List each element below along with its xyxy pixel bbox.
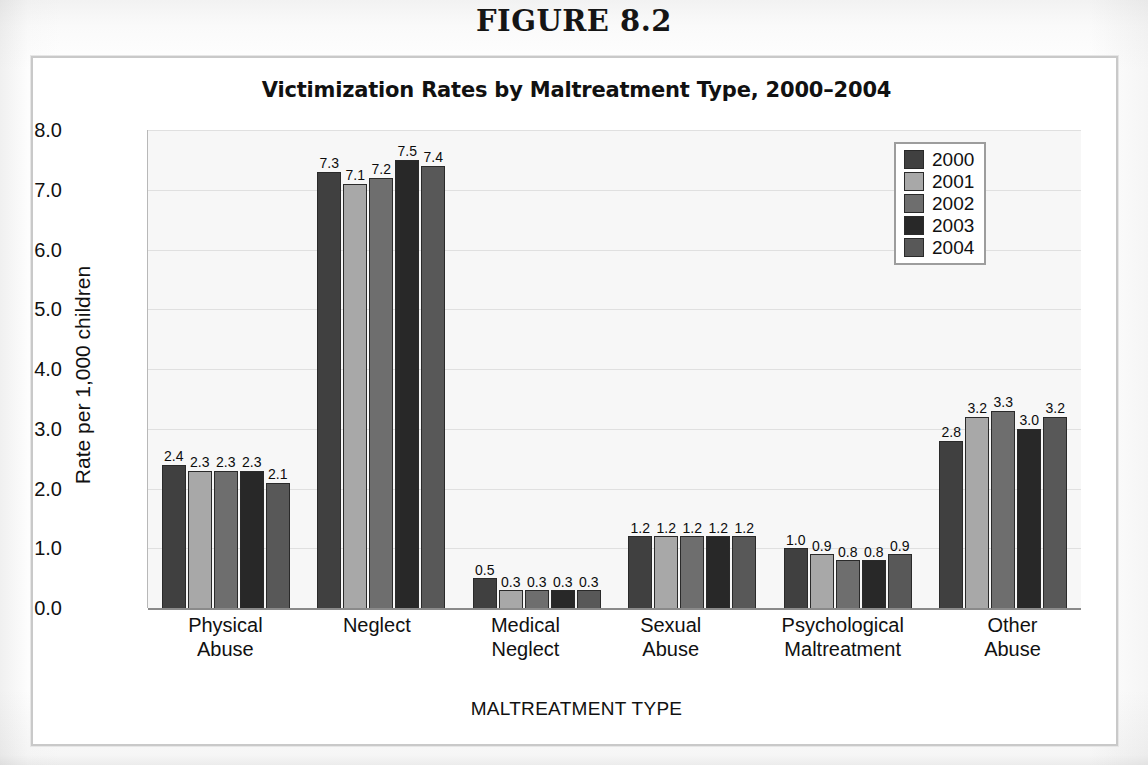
bar[interactable]: 0.9 <box>888 554 912 608</box>
bar-value-label: 1.2 <box>709 521 728 536</box>
x-category-label: Medical Neglect <box>491 614 560 661</box>
bar[interactable]: 3.3 <box>991 411 1015 608</box>
x-category-label: Neglect <box>343 614 411 661</box>
legend-item[interactable]: 2003 <box>904 216 974 235</box>
bar-slot: 1.2 <box>654 130 678 608</box>
bar-value-label: 3.0 <box>1020 413 1039 428</box>
legend-label: 2000 <box>932 150 974 169</box>
bar-slot: 2.3 <box>214 130 238 608</box>
bar-group: 1.00.90.80.80.9 <box>784 130 912 608</box>
legend-item[interactable]: 2004 <box>904 238 974 257</box>
figure-frame: Victimization Rates by Maltreatment Type… <box>31 56 1118 746</box>
bar[interactable]: 0.3 <box>551 590 575 608</box>
bar-value-label: 0.3 <box>553 575 572 590</box>
x-axis-categories: Physical AbuseNeglectMedical NeglectSexu… <box>148 614 1081 661</box>
bar-slot: 1.0 <box>784 130 808 608</box>
bar[interactable]: 2.3 <box>214 471 238 608</box>
bar[interactable]: 1.2 <box>680 536 704 608</box>
bar-value-label: 1.2 <box>657 521 676 536</box>
bar-slot: 0.9 <box>810 130 834 608</box>
bar[interactable]: 1.2 <box>628 536 652 608</box>
figure-page: FIGURE 8.2 Victimization Rates by Maltre… <box>0 0 1148 765</box>
bar-value-label: 3.2 <box>968 401 987 416</box>
bar[interactable]: 2.1 <box>266 483 290 608</box>
bar-value-label: 0.3 <box>501 575 520 590</box>
bar[interactable]: 2.3 <box>240 471 264 608</box>
bar-slot: 2.1 <box>266 130 290 608</box>
bar-group: 2.42.32.32.32.1 <box>162 130 290 608</box>
bar-slot: 1.2 <box>732 130 756 608</box>
bar[interactable]: 0.3 <box>499 590 523 608</box>
bar-value-label: 0.8 <box>838 545 857 560</box>
legend-item[interactable]: 2001 <box>904 172 974 191</box>
bar-value-label: 7.5 <box>398 144 417 159</box>
bar[interactable]: 2.3 <box>188 471 212 608</box>
bar[interactable]: 7.4 <box>421 166 445 608</box>
bar-value-label: 0.9 <box>812 539 831 554</box>
bar-group: 7.37.17.27.57.4 <box>317 130 445 608</box>
x-category-label: Physical Abuse <box>188 614 262 661</box>
bar-value-label: 2.3 <box>216 455 235 470</box>
bar-value-label: 7.4 <box>424 150 443 165</box>
y-axis-label: Rate per 1,000 children <box>71 175 95 575</box>
bar[interactable]: 7.2 <box>369 178 393 608</box>
bar[interactable]: 1.2 <box>706 536 730 608</box>
legend-swatch-icon <box>904 172 924 191</box>
y-tick-label: 2.0 <box>2 477 62 500</box>
legend-swatch-icon <box>904 150 924 169</box>
bar[interactable]: 2.8 <box>939 441 963 608</box>
bar[interactable]: 1.0 <box>784 548 808 608</box>
bar-slot: 7.1 <box>343 130 367 608</box>
bar[interactable]: 2.4 <box>162 465 186 608</box>
bar-slot: 0.8 <box>836 130 860 608</box>
bar[interactable]: 7.3 <box>317 172 341 608</box>
y-tick-label: 5.0 <box>2 298 62 321</box>
legend-label: 2002 <box>932 194 974 213</box>
legend-label: 2004 <box>932 238 974 257</box>
bar-value-label: 7.2 <box>372 162 391 177</box>
bar-value-label: 0.5 <box>475 563 494 578</box>
bar[interactable]: 0.9 <box>810 554 834 608</box>
bar-value-label: 2.3 <box>190 455 209 470</box>
bar[interactable]: 0.3 <box>525 590 549 608</box>
bar[interactable]: 3.0 <box>1017 429 1041 608</box>
bar-slot: 7.3 <box>317 130 341 608</box>
y-tick-label: 7.0 <box>2 178 62 201</box>
bar[interactable]: 7.1 <box>343 184 367 608</box>
bar-value-label: 3.2 <box>1046 401 1065 416</box>
bar-slot: 1.2 <box>706 130 730 608</box>
bar-group: 0.50.30.30.30.3 <box>473 130 601 608</box>
bar[interactable]: 3.2 <box>1043 417 1067 608</box>
bar[interactable]: 0.8 <box>862 560 886 608</box>
bar-slot: 1.2 <box>628 130 652 608</box>
legend-item[interactable]: 2000 <box>904 150 974 169</box>
bar[interactable]: 7.5 <box>395 160 419 608</box>
x-category-label: Sexual Abuse <box>640 614 701 661</box>
x-category-label: Psychological Maltreatment <box>782 614 904 661</box>
bar-slot: 3.3 <box>991 130 1015 608</box>
bar[interactable]: 1.2 <box>654 536 678 608</box>
axis-baseline <box>148 608 1081 610</box>
bar-slot: 0.3 <box>499 130 523 608</box>
bar-slot: 0.3 <box>525 130 549 608</box>
legend-item[interactable]: 2002 <box>904 194 974 213</box>
bar-value-label: 0.8 <box>864 545 883 560</box>
bar-slot: 3.0 <box>1017 130 1041 608</box>
bar-slot: 3.2 <box>1043 130 1067 608</box>
bar-value-label: 0.9 <box>890 539 909 554</box>
bar-slot: 7.2 <box>369 130 393 608</box>
bar-value-label: 2.3 <box>242 455 261 470</box>
bar-value-label: 2.4 <box>164 449 183 464</box>
legend-swatch-icon <box>904 194 924 213</box>
bar[interactable]: 0.5 <box>473 578 497 608</box>
bar-slot: 1.2 <box>680 130 704 608</box>
bar[interactable]: 0.8 <box>836 560 860 608</box>
bar[interactable]: 3.2 <box>965 417 989 608</box>
bar-value-label: 2.1 <box>268 467 287 482</box>
x-axis-label: MALTREATMENT TYPE <box>33 698 1120 720</box>
bar[interactable]: 1.2 <box>732 536 756 608</box>
bar-value-label: 7.1 <box>346 168 365 183</box>
bar-value-label: 7.3 <box>320 156 339 171</box>
bar[interactable]: 0.3 <box>577 590 601 608</box>
x-category-label: Other Abuse <box>984 614 1041 661</box>
